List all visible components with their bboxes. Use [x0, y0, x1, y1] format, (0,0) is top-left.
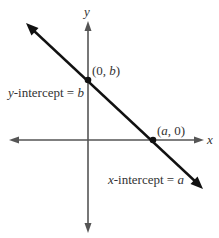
y-axis-down-arrow-icon: [85, 223, 92, 233]
x-intercept-point-label: (a, 0): [157, 123, 185, 138]
y-intercept-dot: [85, 77, 92, 84]
x-intercept-annotation: x-intercept = a: [107, 172, 184, 187]
y-axis-up-arrow-icon: [85, 21, 92, 31]
y-intercept-annotation: y-intercept = b: [6, 85, 84, 100]
y-axis: y: [82, 4, 92, 233]
linear-function-line: [26, 23, 203, 189]
x-axis-left-arrow-icon: [9, 137, 19, 144]
y-intercept-point-label: (0, b): [92, 63, 120, 78]
x-axis-label: x: [206, 132, 213, 147]
x-axis-right-arrow-icon: [194, 137, 204, 144]
intercepts-diagram: y x (0, b) (a, 0) y-intercept = b x-inte…: [0, 0, 219, 238]
y-axis-label: y: [82, 4, 90, 19]
x-intercept-dot: [150, 137, 157, 144]
